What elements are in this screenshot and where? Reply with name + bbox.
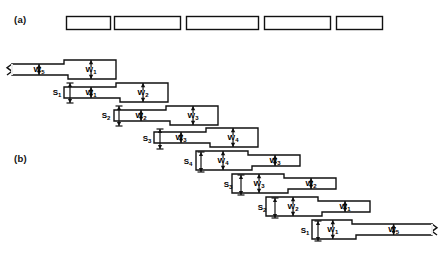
- panel-b-row-5: [196, 151, 300, 170]
- panel-b-offset-7-label: S1: [301, 226, 310, 237]
- panel-b-row-2-right-width-label: W2: [138, 87, 149, 98]
- panel-b-row-8-left-width-label: W1: [327, 224, 338, 235]
- panel-b-row-7-left-width-label: W2: [288, 201, 299, 212]
- panel-b-row-6-right-width-label: W2: [306, 178, 317, 189]
- panel-b-row-4: [154, 128, 258, 147]
- panel-b-row-6-left-width-label: W3: [254, 178, 265, 189]
- panel-b-row-5-right-width-label: W3: [270, 155, 281, 166]
- panel-b-row-1-left-width-label: W5: [34, 64, 45, 75]
- panel-b-row-1-outline: [12, 60, 116, 79]
- panel-b-offset-6-label: S2: [258, 203, 267, 214]
- panel-b-offset-2-label: S2: [102, 111, 111, 122]
- panel-b-row-6: [232, 174, 336, 193]
- panel-b-row-4-left-width-label: W3: [176, 132, 187, 143]
- panel-b-row-3-right-width-label: W3: [188, 110, 199, 121]
- panel-b-row-8-right-width-label: W5: [388, 224, 399, 235]
- panel-b-row-2-outline: [64, 83, 168, 102]
- figure-stepped-taper: (a) (b) W5W1W1W2W2W3W3W4W4W3W3W2W2W1W1W5…: [0, 0, 444, 279]
- panel-b-row-2: [64, 83, 168, 102]
- panel-a-bar-3: [187, 17, 259, 30]
- panel-b-row-4-outline: [154, 128, 258, 147]
- panel-b-row-5-outline: [196, 151, 300, 170]
- panel-b-row-2-left-width-label: W1: [86, 87, 97, 98]
- panel-b-row-3: [114, 106, 218, 125]
- panel-b-offset-4-label: S4: [184, 157, 193, 168]
- panel-label-b: (b): [14, 153, 27, 164]
- panel-b-row-4-right-width-label: W4: [228, 132, 239, 143]
- panel-b-offset-3-label: S3: [143, 134, 152, 145]
- panel-a-bar-4: [265, 17, 331, 30]
- panel-label-a: (a): [14, 14, 27, 25]
- panel-b-row-7-right-width-label: W1: [340, 201, 351, 212]
- panel-b-offset-1-label: S1: [53, 88, 62, 99]
- panel-b-offset-5-label: S3: [224, 180, 233, 191]
- panel-b-row-1: [7, 60, 116, 79]
- panel-a-bar-2: [115, 17, 181, 30]
- panel-b-row-7: [266, 197, 370, 216]
- panel-b-row-3-outline: [114, 106, 218, 125]
- panel-b-row-1-right-width-label: W1: [86, 64, 97, 75]
- panel-b-row-6-outline: [232, 174, 336, 193]
- panel-a-bar-5: [337, 17, 383, 30]
- panel-a-bar-1: [67, 17, 111, 30]
- panel-b-row-7-outline: [266, 197, 370, 216]
- panel-b-offset-3-head-top: [158, 129, 162, 133]
- panel-b-row-5-left-width-label: W4: [218, 155, 229, 166]
- panel-b-row-3-left-width-label: W2: [136, 110, 147, 121]
- diagram-canvas: [0, 0, 444, 279]
